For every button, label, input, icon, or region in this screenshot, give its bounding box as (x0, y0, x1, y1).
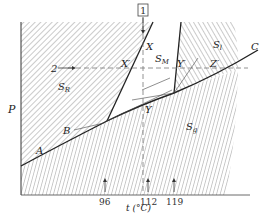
tick-119: 119 (166, 197, 183, 207)
path-2-label: 2 (50, 63, 57, 74)
point-B-label: B (62, 125, 70, 136)
tick-112: 112 (140, 197, 157, 207)
path-1-label: 1 (140, 5, 146, 16)
point-Y-prime-label: Y′ (177, 58, 187, 69)
point-X-prime-label: X′ (120, 58, 131, 69)
point-X-label: X (145, 41, 154, 52)
point-Z-prime-label: Z′ (209, 58, 220, 69)
region-monoclinic-label: SM (155, 53, 170, 66)
point-C-label: C (251, 41, 259, 52)
y-axis-label: P (7, 103, 16, 116)
metastable-line-2 (142, 78, 170, 90)
point-A-label: A (35, 145, 43, 156)
tick-96: 96 (99, 197, 111, 207)
phase-diagram: 1 2 P t (°C) 96 112 119 SR SM Sl Sg A B … (0, 0, 271, 215)
